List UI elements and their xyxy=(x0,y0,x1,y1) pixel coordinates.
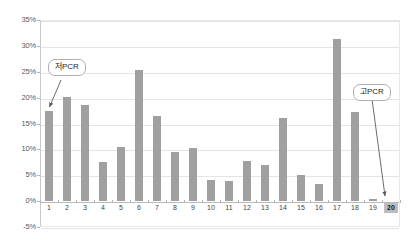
x-axis-tick-mark xyxy=(76,200,77,203)
plot-area xyxy=(40,20,400,227)
x-axis-tick-mark xyxy=(94,200,95,203)
x-axis-tick-mark xyxy=(256,200,257,203)
x-axis-tick-label: 11 xyxy=(222,203,236,213)
x-axis-tick-mark xyxy=(292,200,293,203)
y-axis-tick-label: 15% xyxy=(2,120,36,128)
x-axis-tick-label: 14 xyxy=(276,203,290,213)
y-axis-tick-label: -5% xyxy=(2,223,36,231)
x-axis-tick-label: 18 xyxy=(348,203,362,213)
gridline xyxy=(41,73,399,74)
bar xyxy=(81,105,89,201)
y-axis-tick-mark xyxy=(37,72,40,73)
x-axis-tick-label: 1 xyxy=(42,203,56,213)
bar xyxy=(45,111,53,202)
bar xyxy=(243,161,251,201)
annotation-low-pcr: 저PCR xyxy=(48,59,86,76)
y-axis-tick-mark xyxy=(37,149,40,150)
y-axis-tick-mark xyxy=(37,227,40,228)
x-axis-tick-mark xyxy=(346,200,347,203)
x-axis-tick-label: 3 xyxy=(78,203,92,213)
y-axis-tick-mark xyxy=(37,46,40,47)
x-axis-tick-mark xyxy=(148,200,149,203)
x-axis-tick-mark xyxy=(202,200,203,203)
x-axis-tick-mark xyxy=(58,200,59,203)
y-axis-tick-label: 20% xyxy=(2,94,36,102)
bar xyxy=(261,165,269,201)
y-axis-tick-label: 35% xyxy=(2,16,36,24)
x-axis-tick-label: 2 xyxy=(60,203,74,213)
bar xyxy=(225,181,233,201)
y-axis-tick-label: 5% xyxy=(2,171,36,179)
bar xyxy=(117,147,125,201)
bar xyxy=(63,97,71,202)
x-axis-tick-label: 15 xyxy=(294,203,308,213)
bar xyxy=(99,162,107,201)
annotation-high-pcr: 고PCR xyxy=(353,84,391,101)
bar xyxy=(153,116,161,201)
x-axis-tick-label: 19 xyxy=(366,203,380,213)
y-axis-tick-label: 10% xyxy=(2,145,36,153)
x-axis-tick-label: 10 xyxy=(204,203,218,213)
gridline xyxy=(41,21,399,22)
x-axis-tick-label: 17 xyxy=(330,203,344,213)
x-axis-tick-mark xyxy=(274,200,275,203)
bar xyxy=(333,39,341,201)
x-axis-tick-mark xyxy=(364,200,365,203)
gridline xyxy=(41,150,399,151)
x-axis-tick-mark xyxy=(40,200,41,203)
bar xyxy=(189,148,197,201)
gridline xyxy=(41,176,399,177)
bar xyxy=(171,152,179,201)
y-axis-tick-label: 30% xyxy=(2,42,36,50)
gridline xyxy=(41,99,399,100)
x-axis-tick-label: 12 xyxy=(240,203,254,213)
x-axis-tick-label: 8 xyxy=(168,203,182,213)
y-axis-tick-mark xyxy=(37,98,40,99)
x-axis-tick-mark xyxy=(310,200,311,203)
y-axis-tick-label: 0% xyxy=(2,197,36,205)
x-axis-tick-mark xyxy=(166,200,167,203)
x-axis-tick-label: 6 xyxy=(132,203,146,213)
x-axis-tick-label: 7 xyxy=(150,203,164,213)
x-axis: 1234567891011121314151617181920 xyxy=(40,200,400,218)
x-axis-tick-label: 9 xyxy=(186,203,200,213)
bar xyxy=(297,175,305,201)
bar xyxy=(315,184,323,201)
x-axis-tick-label: 16 xyxy=(312,203,326,213)
bar xyxy=(279,118,287,201)
x-axis-tick-label: 4 xyxy=(96,203,110,213)
x-axis-tick-mark xyxy=(220,200,221,203)
x-axis-tick-mark xyxy=(382,200,383,203)
x-axis-tick-label: 20 xyxy=(384,203,398,213)
y-axis-tick-mark xyxy=(37,124,40,125)
gridline xyxy=(41,228,399,229)
gridline xyxy=(41,125,399,126)
x-axis-tick-label: 5 xyxy=(114,203,128,213)
y-axis-tick-label: 25% xyxy=(2,68,36,76)
gridline xyxy=(41,47,399,48)
y-axis-tick-mark xyxy=(37,20,40,21)
x-axis-tick-mark xyxy=(400,200,401,203)
bar xyxy=(135,70,143,201)
bar-chart: 35%30%25%20%15%10%5%0%-5% 12345678910111… xyxy=(0,0,419,252)
x-axis-tick-label: 13 xyxy=(258,203,272,213)
x-axis-tick-mark xyxy=(112,200,113,203)
x-axis-tick-mark xyxy=(238,200,239,203)
y-axis-tick-mark xyxy=(37,175,40,176)
bar xyxy=(207,180,215,201)
x-axis-tick-mark xyxy=(184,200,185,203)
x-axis-tick-mark xyxy=(130,200,131,203)
x-axis-tick-mark xyxy=(328,200,329,203)
bar xyxy=(351,112,359,201)
